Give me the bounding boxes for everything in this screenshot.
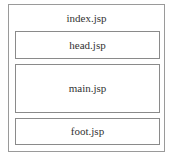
- main-jsp-label: main.jsp: [69, 83, 107, 94]
- head-jsp-box: head.jsp: [15, 31, 160, 59]
- index-jsp-label: index.jsp: [8, 13, 165, 24]
- main-jsp-box: main.jsp: [15, 64, 160, 113]
- head-jsp-label: head.jsp: [69, 40, 105, 51]
- foot-jsp-label: foot.jsp: [71, 126, 104, 137]
- foot-jsp-box: foot.jsp: [15, 118, 160, 145]
